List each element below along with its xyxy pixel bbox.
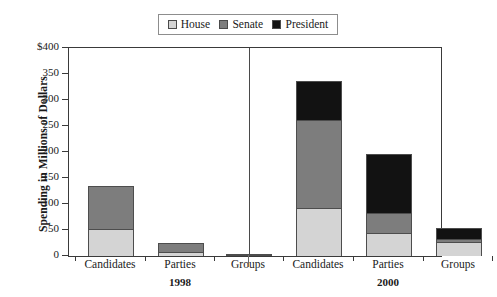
y-axis-tick-label: $400 <box>37 40 59 52</box>
bar-2000-parties <box>366 154 412 256</box>
bar-segment-president <box>436 228 482 238</box>
bar-segment-house <box>296 208 342 256</box>
x-axis-label-parties-2000: Parties <box>348 258 428 270</box>
x-axis-label-candidates-1998: Candidates <box>70 258 150 270</box>
y-axis-tick-label: 100 <box>43 196 60 208</box>
bar-1998-candidates <box>88 186 134 256</box>
bar-segment-senate <box>296 120 342 208</box>
group-divider-bottom <box>248 255 249 267</box>
plot-area <box>68 47 442 257</box>
y-axis-tick-label: 250 <box>43 118 60 130</box>
chart-legend: House Senate President <box>158 14 338 35</box>
bar-segment-house <box>158 252 204 256</box>
bar-segment-senate <box>366 213 412 233</box>
bar-segment-house <box>88 229 134 256</box>
y-axis-tick-label: 200 <box>43 144 60 156</box>
group-divider <box>249 48 250 256</box>
legend-swatch-president-icon <box>272 20 281 29</box>
legend-item-president: President <box>272 19 328 31</box>
bar-segment-house <box>436 242 482 256</box>
legend-swatch-senate-icon <box>219 20 228 29</box>
bar-segment-house <box>366 233 412 256</box>
bar-segment-senate <box>88 186 134 229</box>
legend-swatch-house-icon <box>168 20 177 29</box>
legend-label-senate: Senate <box>232 19 263 31</box>
bar-1998-groups <box>226 254 272 256</box>
x-axis-label-candidates-2000: Candidates <box>278 258 358 270</box>
x-axis-group-label-2000: 2000 <box>343 276 433 288</box>
bar-1998-parties <box>158 243 204 256</box>
bar-segment-senate <box>158 243 204 252</box>
y-axis-tick-label: 50 <box>48 222 59 234</box>
y-axis-tick-label: 300 <box>43 92 60 104</box>
legend-label-house: House <box>181 19 210 31</box>
y-axis-tick-label: 150 <box>43 170 60 182</box>
plot-inner <box>69 48 441 256</box>
bar-segment-president <box>366 154 412 213</box>
x-axis-group-label-1998: 1998 <box>135 276 225 288</box>
y-axis-tick-label: 350 <box>43 66 60 78</box>
legend-label-president: President <box>285 19 328 31</box>
legend-item-senate: Senate <box>219 19 263 31</box>
x-axis-label-groups-2000: Groups <box>418 258 497 270</box>
bar-2000-candidates <box>296 81 342 256</box>
bar-segment-house <box>226 255 272 256</box>
y-axis-tick-label: 0 <box>54 248 60 260</box>
bar-segment-president <box>296 81 342 120</box>
legend-item-house: House <box>168 19 210 31</box>
bar-2000-groups <box>436 228 482 256</box>
